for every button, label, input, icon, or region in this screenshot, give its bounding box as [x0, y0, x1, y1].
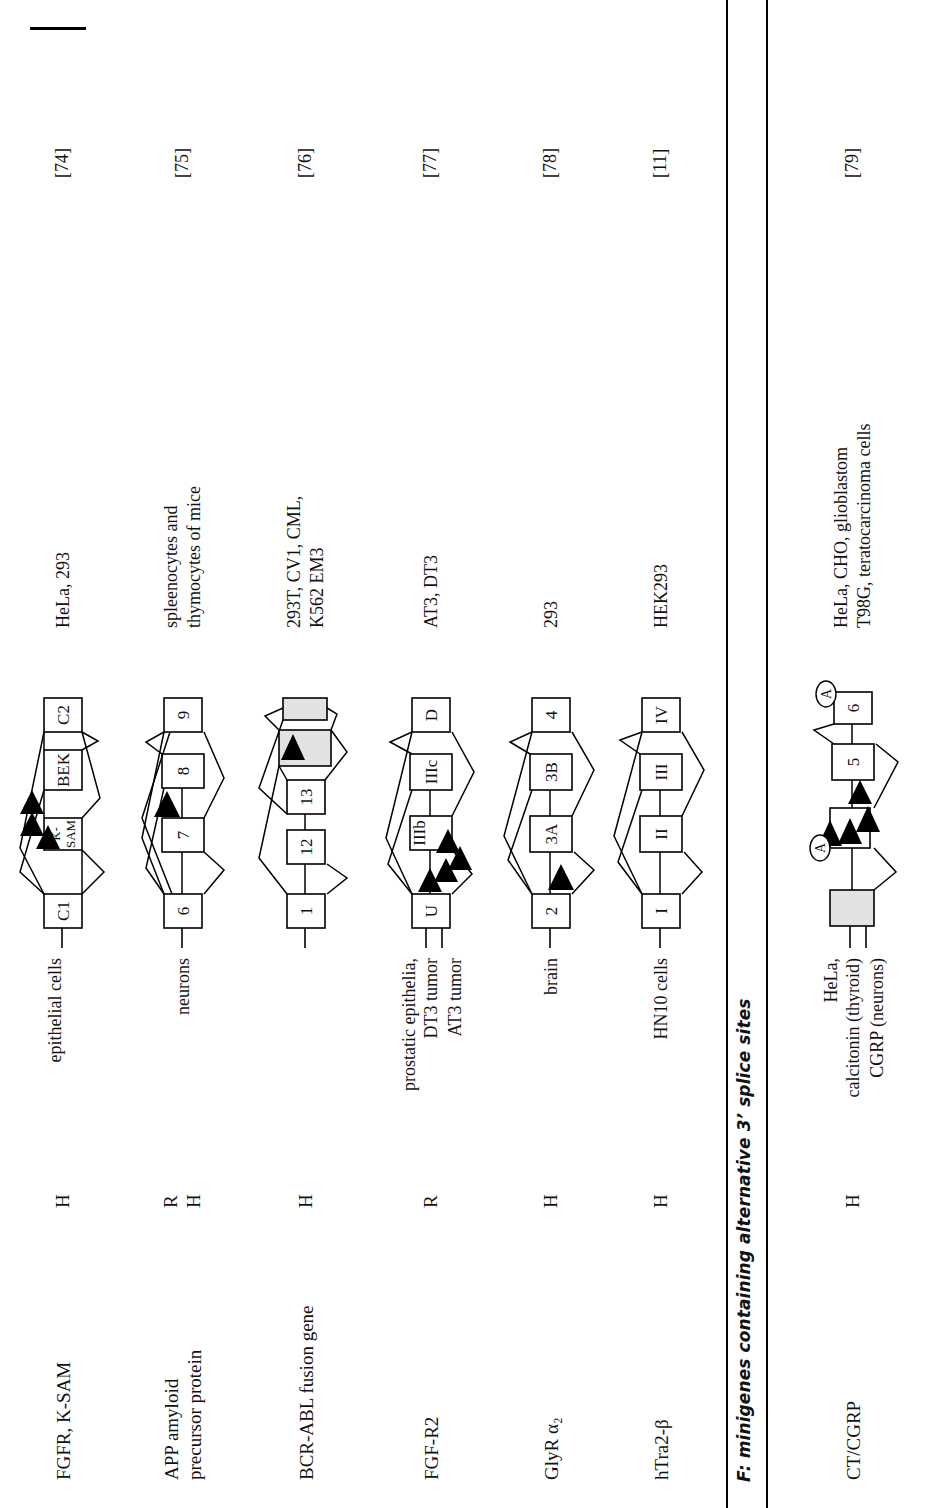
exon-label: K-	[48, 827, 63, 841]
cell-line-item: HeLa, 293	[52, 552, 75, 628]
splice-diagram: I II III IV	[598, 698, 718, 948]
exon-label: 5	[844, 758, 863, 767]
gene-name-line1: BCR-ABL fusion gene	[296, 1305, 317, 1480]
gene-name-line1: hTra2-β	[651, 1419, 672, 1480]
cell-lines: HeLa, 293	[52, 552, 75, 628]
exon-label: IIIc	[422, 759, 441, 784]
tissue-label: HeLa,	[820, 958, 842, 1178]
splice-diagram-svg: 1 12 13	[243, 698, 363, 948]
exon-label: 12	[297, 839, 316, 856]
exon-label: C1	[54, 901, 73, 921]
splice-diagram-svg: C1 K- SAM BEK C2	[0, 698, 120, 948]
species-label: H	[540, 1186, 562, 1208]
cell-line-item: 293	[540, 601, 563, 628]
figure-page: FGFR, K-SAM H epithelial cells	[0, 0, 940, 1508]
reference-label: [78]	[540, 148, 561, 178]
splice-diagram-svg: 6 7 8 9	[120, 698, 240, 948]
rotated-figure-wrapper: FGFR, K-SAM H epithelial cells	[0, 0, 940, 1508]
gene-row-ct-cgrp: CT/CGRP H HeLa, calcitonin (thyroid) CGR…	[790, 0, 910, 1508]
cell-line-item: HEK293	[650, 564, 673, 628]
splice-diagram: 2 3A 3B 4	[488, 698, 608, 948]
reference-label: [11]	[650, 149, 671, 178]
exon-label: 3A	[542, 823, 561, 845]
section-divider-top	[726, 0, 728, 1508]
exon-label: U	[422, 905, 441, 917]
splice-diagram: 6 7 8 9	[120, 698, 240, 948]
exon-label: 6	[174, 907, 193, 916]
cell-lines: HeLa, CHO, glioblastom T98G, teratocarci…	[830, 424, 876, 628]
splice-diagram-svg: A A 5 6	[790, 688, 910, 948]
species-label: H	[650, 1186, 672, 1208]
reference-label: [77]	[420, 148, 441, 178]
splice-diagram: C1 K- SAM BEK C2	[0, 698, 120, 948]
species-label: R	[160, 1186, 182, 1208]
gene-row-htra2-beta: hTra2-β H HN10 cells I II III IV	[598, 0, 718, 1508]
species-label: H	[52, 1186, 74, 1208]
species-label: R	[420, 1186, 442, 1208]
gene-name: BCR-ABL fusion gene	[295, 1220, 318, 1480]
cell-lines: 293T, CV1, CML, K562 EM3	[283, 496, 329, 628]
exon-label: 8	[174, 767, 193, 776]
splice-diagram: A A 5 6	[790, 688, 910, 948]
gene-name: GlyR α₂	[540, 1250, 563, 1480]
tissue-label: AT3 tumor	[444, 958, 466, 1178]
cell-line-item: T98G, teratocarcinoma cells	[853, 424, 876, 628]
exon-label: IV	[652, 705, 671, 724]
gene-name: APP amyloid precursor protein	[160, 1250, 206, 1480]
exon-label: 6	[844, 704, 863, 713]
tissue-label: calcitonin (thyroid)	[842, 958, 864, 1178]
section-title: F: minigenes containing alternative 3’ s…	[734, 998, 754, 1482]
gene-name: FGF-R2	[420, 1250, 443, 1480]
gene-name-line1: CT/CGRP	[843, 1401, 864, 1480]
species-label: H	[295, 1186, 317, 1208]
gene-name-line1: FGFR, K-SAM	[53, 1362, 74, 1480]
exon-label: III	[652, 763, 671, 780]
tissue-label: DT3 tumor	[420, 958, 442, 1178]
annotation-label: A	[813, 842, 828, 853]
exon-label: I	[652, 908, 671, 914]
cell-line-item: AT3, DT3	[420, 555, 443, 628]
tissue-label: brain	[540, 958, 562, 1148]
cell-lines: 293	[540, 601, 563, 628]
exon-label: 13	[297, 789, 316, 806]
exon-label: 4	[542, 710, 561, 719]
exon-label: IIIb	[410, 820, 429, 845]
gene-name: hTra2-β	[650, 1250, 673, 1480]
gene-row-fgfr-ksam: FGFR, K-SAM H epithelial cells	[0, 0, 120, 1508]
exon-label: II	[652, 828, 671, 840]
gene-name: FGFR, K-SAM	[52, 1250, 75, 1480]
exon-label: 3B	[542, 762, 561, 782]
exon-label: 9	[174, 711, 193, 720]
exon-label: 1	[297, 907, 316, 916]
cell-lines: AT3, DT3	[420, 555, 443, 628]
exon-label: 2	[542, 907, 561, 916]
gene-name-line1: GlyR α₂	[541, 1417, 562, 1480]
gene-name-line1: FGF-R2	[421, 1417, 442, 1480]
gene-name: CT/CGRP	[842, 1250, 865, 1480]
reference-label: [76]	[295, 148, 316, 178]
section-divider-bottom	[766, 0, 768, 1508]
tissue-label: prostatic epithelia,	[398, 958, 420, 1178]
exon-label: D	[422, 709, 441, 721]
exon-label: SAM	[63, 819, 78, 848]
cell-line-item: 293T, CV1, CML,	[283, 496, 306, 628]
gene-row-app-amyloid: APP amyloid precursor protein R H neuron…	[120, 0, 240, 1508]
reference-label: [74]	[52, 148, 73, 178]
cell-line-item: K562 EM3	[306, 496, 329, 628]
gene-row-fgf-r2: FGF-R2 R prostatic epithelia, DT3 tumor …	[368, 0, 488, 1508]
tissue-label: HN10 cells	[650, 958, 672, 1148]
splice-diagram: 1 12 13	[243, 698, 363, 948]
exon-label: BEK	[54, 752, 73, 787]
gene-row-glyr-alpha2: GlyR α₂ H brain 2 3A 3B	[488, 0, 608, 1508]
reference-label: [79]	[842, 148, 863, 178]
cell-line-item: HeLa, CHO, glioblastom	[830, 424, 853, 628]
species-label: H	[842, 1186, 864, 1208]
page-edge-mark	[30, 27, 86, 30]
exon-label: C2	[54, 705, 73, 725]
tissue-label: epithelial cells	[44, 958, 66, 1148]
cell-lines: HEK293	[650, 564, 673, 628]
splice-diagram-svg: U IIIb IIIc D	[368, 698, 488, 948]
splice-diagram-svg: I II III IV	[598, 698, 718, 948]
tissue-label: CGRP (neurons)	[866, 958, 888, 1178]
reference-label: [75]	[172, 148, 193, 178]
